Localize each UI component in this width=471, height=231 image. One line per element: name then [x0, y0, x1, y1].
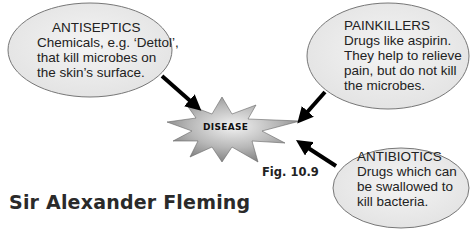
- antibiotics-line-3: kill bacteria.: [357, 194, 457, 209]
- antiseptics-text: ANTISEPTICS Chemicals, e.g. ‘Dettol’, th…: [37, 20, 179, 80]
- painkillers-line-2: They help to relieve: [344, 48, 462, 63]
- arrow-antiseptics-to-disease: [162, 76, 196, 106]
- figure-label: Fig. 10.9: [262, 165, 319, 179]
- antibiotics-title: ANTIBIOTICS: [357, 149, 457, 164]
- section-heading: Sir Alexander Fleming: [9, 191, 250, 213]
- antibiotics-text: ANTIBIOTICS Drugs which can be swallowed…: [357, 149, 457, 209]
- painkillers-line-3: pain, but do not kill: [344, 63, 462, 78]
- disease-label: DISEASE: [203, 122, 248, 132]
- painkillers-line-1: Drugs like aspirin.: [344, 33, 462, 48]
- antiseptics-line-3: the skin’s surface.: [37, 65, 179, 80]
- antiseptics-line-1: Chemicals, e.g. ‘Dettol’,: [37, 35, 179, 50]
- arrow-painkillers-to-disease: [302, 92, 325, 118]
- arrow-antibiotics-to-disease: [302, 144, 336, 166]
- painkillers-line-4: the microbes.: [344, 78, 462, 93]
- painkillers-title: PAINKILLERS: [344, 18, 462, 33]
- antibiotics-line-1: Drugs which can: [357, 164, 457, 179]
- painkillers-text: PAINKILLERS Drugs like aspirin. They hel…: [344, 18, 462, 93]
- antiseptics-title: ANTISEPTICS: [37, 20, 179, 35]
- antiseptics-line-2: that kill microbes on: [37, 50, 179, 65]
- antibiotics-line-2: be swallowed to: [357, 179, 457, 194]
